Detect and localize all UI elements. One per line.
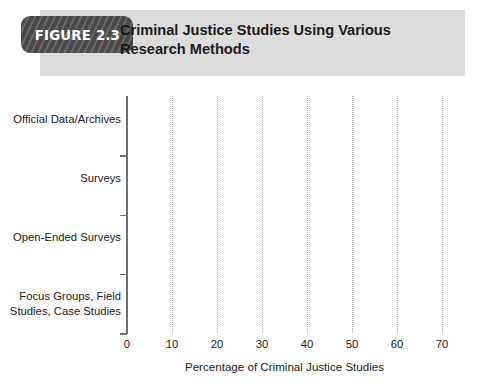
figure-number-label: FIGURE 2.3 <box>34 27 119 43</box>
gridline <box>397 96 398 333</box>
category-label: Focus Groups, Field Studies, Case Studie… <box>0 289 121 318</box>
category-label: Open-Ended Surveys <box>0 230 121 245</box>
x-tick-label: 50 <box>332 338 372 350</box>
bar-row: 57.4% <box>127 109 385 142</box>
bar-value-label: 49.2% <box>132 179 163 191</box>
x-axis-title: Percentage of Criminal Justice Studies <box>127 360 442 373</box>
y-tick-mark <box>120 215 127 217</box>
bar-value-label: 18% <box>132 238 154 250</box>
x-tick-label: 30 <box>242 338 282 350</box>
bar-row: 18% <box>127 228 208 261</box>
x-tick-label: 70 <box>422 338 462 350</box>
figure-title: Criminal Justice Studies Using Various R… <box>120 21 450 59</box>
figure-number-badge: FIGURE 2.3 <box>21 16 133 53</box>
x-tick-label: 60 <box>377 338 417 350</box>
figure-header: FIGURE 2.3 Criminal Justice Studies Usin… <box>0 0 489 92</box>
bar-value-label: 57.4% <box>132 120 163 132</box>
y-axis-end-tick <box>120 333 127 335</box>
category-label: Official Data/Archives <box>0 112 121 127</box>
y-tick-mark <box>120 274 127 276</box>
bar-row: 49.2% <box>127 168 348 201</box>
bar-value-label: 6.6% <box>132 297 157 309</box>
x-tick-label: 10 <box>152 338 192 350</box>
x-tick-label: 0 <box>107 338 147 350</box>
bar-chart: 57.4%49.2%18%6.6% Official Data/Archives… <box>0 92 489 384</box>
x-tick-label: 20 <box>197 338 237 350</box>
y-tick-mark <box>120 155 127 157</box>
bar-row: 6.6% <box>127 287 157 320</box>
category-label: Surveys <box>0 171 121 186</box>
x-tick-label: 40 <box>287 338 327 350</box>
gridline <box>442 96 443 333</box>
